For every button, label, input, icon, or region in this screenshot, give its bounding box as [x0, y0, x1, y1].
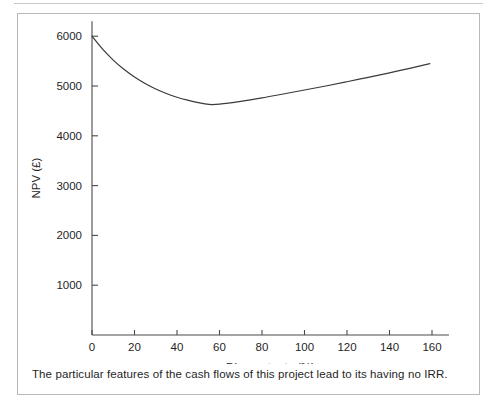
- chart-plot-area: 0204060801001201401601000200030004000500…: [18, 14, 481, 364]
- figure-caption-text: The particular features of the cash flow…: [32, 367, 448, 381]
- figure-caption: The particular features of the cash flow…: [18, 354, 479, 394]
- x-axis-tick-label: 20: [128, 341, 141, 353]
- x-axis-tick-label: 100: [295, 341, 314, 353]
- y-axis-tick-label: 1000: [56, 279, 82, 291]
- y-axis-tick-label: 6000: [56, 30, 82, 42]
- y-axis-tick-label: 3000: [56, 180, 82, 192]
- y-axis-title: NPV (£): [30, 158, 42, 199]
- x-axis-tick-label: 40: [171, 341, 184, 353]
- x-axis-tick-label: 160: [422, 341, 441, 353]
- npv-discount-rate-line-chart: 0204060801001201401601000200030004000500…: [18, 14, 481, 364]
- x-axis-tick-label: 140: [380, 341, 399, 353]
- x-axis-tick-label: 0: [89, 341, 95, 353]
- figure-container: 0204060801001201401601000200030004000500…: [17, 13, 480, 395]
- x-axis-tick-label: 80: [256, 341, 269, 353]
- page-top-rule: [14, 3, 483, 4]
- x-axis-tick-label: 120: [337, 341, 356, 353]
- data-series-line-0: [92, 36, 430, 104]
- y-axis-tick-label: 5000: [56, 80, 82, 92]
- x-axis-tick-label: 60: [213, 341, 226, 353]
- y-axis-tick-label: 4000: [56, 130, 82, 142]
- figure-page: 0204060801001201401601000200030004000500…: [0, 0, 497, 415]
- y-axis-tick-label: 2000: [56, 229, 82, 241]
